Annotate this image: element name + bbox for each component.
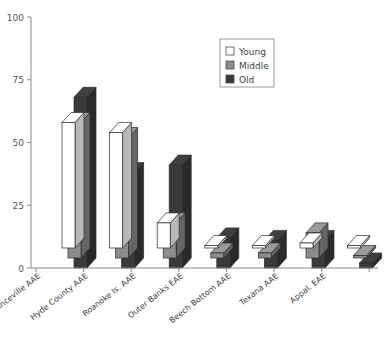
bar-chart: 0255075100 Princeville AAEHyde County AA…: [0, 0, 392, 347]
bar-side-face: [123, 123, 132, 248]
legend-item-young[interactable]: Young: [226, 47, 266, 57]
bars-layer: [62, 87, 382, 268]
legend-swatch: [226, 75, 234, 83]
bar-side-face: [182, 155, 191, 268]
bar-young-2: [110, 123, 132, 248]
bar-front-face: [211, 253, 224, 258]
legend-label: Old: [239, 75, 254, 85]
bar-front-face: [62, 123, 75, 249]
y-tick-label: 75: [13, 75, 24, 85]
y-tick-label: 50: [13, 138, 25, 148]
y-tick-label: 25: [13, 201, 24, 211]
legend-swatch: [226, 61, 234, 69]
legend-item-old[interactable]: Old: [226, 75, 254, 85]
bar-young-1: [62, 113, 84, 249]
bar-front-face: [110, 133, 123, 248]
legend-item-middle[interactable]: Middle: [226, 61, 269, 71]
bar-front-face: [360, 263, 373, 268]
legend-label: Young: [238, 47, 266, 57]
legend: YoungMiddleOld: [220, 39, 274, 87]
chart-canvas: 0255075100 Princeville AAEHyde County AA…: [0, 0, 392, 347]
legend-swatch: [226, 47, 234, 55]
bar-front-face: [258, 253, 271, 258]
y-tick-label: 100: [7, 13, 24, 23]
bar-front-face: [300, 243, 313, 248]
bar-front-face: [354, 255, 367, 258]
plot-area: [62, 87, 382, 268]
bar-front-face: [252, 245, 265, 248]
y-tick-label: 0: [18, 264, 24, 274]
bar-side-face: [75, 113, 84, 249]
bar-front-face: [157, 223, 170, 248]
bar-front-face: [348, 245, 361, 248]
bar-front-face: [205, 245, 218, 248]
legend-label: Middle: [239, 61, 269, 71]
x-category-label: Appal. EAE: [288, 271, 328, 305]
x-category-labels: Princeville AAEHyde County AAERoanoke Is…: [0, 271, 328, 325]
x-category-label: Texana AAE: [237, 271, 280, 307]
y-tick-labels: 0255075100: [7, 13, 24, 274]
